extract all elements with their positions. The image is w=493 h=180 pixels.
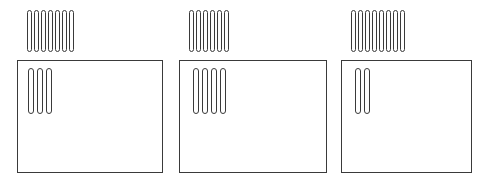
tally-mark: [224, 10, 229, 52]
tally-mark: [46, 68, 52, 114]
tally-mark: [358, 10, 363, 52]
tally-mark: [217, 10, 222, 52]
tally-mark: [393, 10, 398, 52]
tally-mark: [27, 10, 32, 52]
tally-mark: [355, 68, 361, 114]
tally-mark: [372, 10, 377, 52]
tally-mark: [386, 10, 391, 52]
panel-2-marks-above: [189, 10, 229, 52]
panel-3-marks-inside: [355, 68, 370, 114]
tally-mark: [203, 10, 208, 52]
panel-2-marks-inside: [193, 68, 226, 114]
tally-mark: [400, 10, 405, 52]
tally-mark: [48, 10, 53, 52]
panel-1-marks-inside: [28, 68, 52, 114]
tally-mark: [365, 10, 370, 52]
tally-mark: [196, 10, 201, 52]
tally-mark: [37, 68, 43, 114]
tally-mark: [28, 68, 34, 114]
tally-mark: [62, 10, 67, 52]
tally-mark: [202, 68, 208, 114]
tally-mark: [210, 10, 215, 52]
tally-mark: [69, 10, 74, 52]
tally-mark: [193, 68, 199, 114]
panel-1-marks-above: [27, 10, 74, 52]
tally-mark: [364, 68, 370, 114]
tally-mark: [351, 10, 356, 52]
tally-mark: [220, 68, 226, 114]
tally-mark: [189, 10, 194, 52]
tally-mark: [55, 10, 60, 52]
tally-mark: [41, 10, 46, 52]
panel-3-marks-above: [351, 10, 405, 52]
tally-mark: [34, 10, 39, 52]
tally-mark: [379, 10, 384, 52]
diagram-canvas: [0, 0, 493, 180]
tally-mark: [211, 68, 217, 114]
